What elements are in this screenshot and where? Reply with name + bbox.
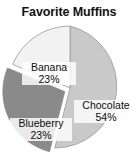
pie-label-blueberry-name: Blueberry: [11, 118, 71, 130]
pie-label-chocolate-percent: 54%: [75, 112, 137, 124]
pie-label-banana: Banana 23%: [22, 62, 76, 85]
pie-label-chocolate: Chocolate 54%: [74, 100, 138, 123]
pie-chart-figure: Favorite Muffins Chocolate 54% Banana 23…: [0, 0, 138, 156]
pie-label-blueberry-percent: 23%: [11, 130, 71, 142]
pie-label-chocolate-name: Chocolate: [75, 100, 137, 112]
pie-label-banana-percent: 23%: [23, 74, 75, 86]
chart-title: Favorite Muffins: [0, 5, 138, 19]
pie-label-blueberry: Blueberry 23%: [10, 118, 72, 141]
pie-label-banana-name: Banana: [23, 62, 75, 74]
pie-plot-area: Chocolate 54% Banana 23% Blueberry 23%: [0, 22, 138, 156]
